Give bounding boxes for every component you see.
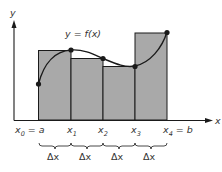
interval-label-1: Δx [47,151,59,162]
partition-label-x2: x2 [97,124,108,138]
interval-braces [39,143,167,149]
y-axis-label: y [9,7,16,18]
rectangle-4 [135,33,167,120]
interval-label-3: Δx [111,151,123,162]
rectangle-1 [39,51,72,121]
partition-labels: x0 = a x1 x2 x3 x4 = b [14,124,193,138]
partition-label-x3: x3 [130,124,141,138]
rectangles [39,33,168,120]
brace-icon [103,143,135,149]
point-x0 [36,81,41,86]
interval-label-2: Δx [79,151,91,162]
interval-labels: Δx Δx Δx Δx [47,151,155,162]
curve-label: y = f(x) [64,28,101,39]
riemann-sum-diagram: y x y = f(x) x0 = a x1 x2 x3 x4 = b Δx Δ… [0,0,222,172]
x-axis-arrow-icon [205,118,213,123]
brace-icon [71,143,103,149]
y-axis-arrow-icon [12,20,17,28]
brace-icon [39,143,71,149]
point-x4 [164,30,169,35]
brace-icon [135,143,167,149]
point-x2 [100,56,105,61]
rectangle-2 [71,59,103,121]
partition-label-x4: x4 = b [162,124,193,138]
partition-label-x1: x1 [66,124,77,138]
x-axis-label: x [214,115,221,126]
rectangle-3 [103,67,135,121]
point-x1 [68,47,73,52]
point-x3 [132,64,137,69]
partition-label-x0: x0 = a [14,124,45,138]
interval-label-4: Δx [143,151,155,162]
